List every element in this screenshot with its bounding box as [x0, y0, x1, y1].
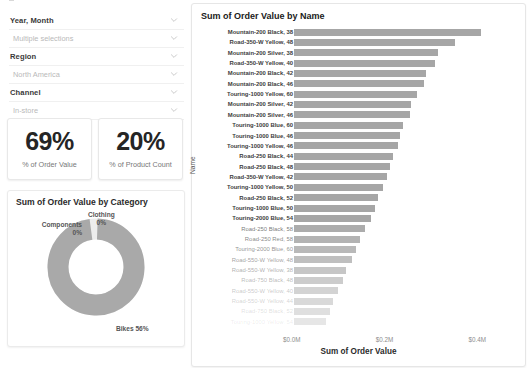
bar-chart-row[interactable]: Road-250 Red, 58: [192, 235, 525, 243]
bar-category-label: Road-350-W Yellow, 48: [229, 38, 293, 46]
bar-category-label: Road-250 Red, 58: [245, 235, 293, 243]
bar-rect[interactable]: [294, 184, 383, 191]
bar-rect[interactable]: [294, 153, 393, 160]
bar-category-label: Road-250 Black, 52: [239, 194, 293, 202]
chevron-down-icon[interactable]: [170, 88, 178, 96]
bar-chart-row[interactable]: Road-350-W Yellow, 42: [192, 173, 525, 181]
chevron-down-icon[interactable]: [170, 70, 178, 78]
bar-chart-row[interactable]: Road-250 Black, 48: [192, 163, 525, 171]
bar-rect[interactable]: [294, 236, 360, 243]
bar-category-label: Touring-1000 Yellow, 46: [227, 142, 293, 150]
bar-chart-row[interactable]: Road-350-W Yellow, 40: [192, 59, 525, 67]
bar-chart-row[interactable]: Touring-1000 Blue, 60: [192, 121, 525, 129]
bar-category-label: Mountain-200 Black, 38: [228, 28, 293, 36]
bar-rect[interactable]: [294, 256, 352, 263]
kpi-value: 20%: [116, 129, 165, 154]
chevron-down-icon[interactable]: [170, 34, 178, 42]
bar-rect[interactable]: [294, 111, 410, 118]
bar-chart-row[interactable]: Touring-1000 Yellow, 46: [192, 142, 525, 150]
bar-chart-row[interactable]: Mountain-200 Black, 42: [192, 69, 525, 77]
bar-rect[interactable]: [294, 246, 356, 253]
bar-rect[interactable]: [294, 163, 390, 170]
filter-row-channel[interactable]: Channel: [6, 82, 184, 102]
bar-rect[interactable]: [294, 225, 365, 232]
bar-chart-row[interactable]: Road-550-W Yellow, 38: [192, 266, 525, 274]
bar-chart-row[interactable]: Mountain-200 Silver, 46: [192, 111, 525, 119]
bar-rect[interactable]: [294, 70, 426, 77]
chevron-down-icon[interactable]: [170, 52, 178, 60]
donut-label-components-pct: 0%: [22, 229, 82, 237]
bar-chart-row[interactable]: Mountain-200 Black, 46: [192, 80, 525, 88]
bar-chart-row[interactable]: Touring-2000 Blue, 60: [192, 245, 525, 253]
filter-row-multiple-selections[interactable]: Multiple selections: [6, 28, 184, 48]
bar-rect[interactable]: [294, 277, 343, 284]
bar-rect[interactable]: [294, 194, 378, 201]
bar-category-label: Road-350-W Yellow, 42: [229, 173, 293, 181]
donut-chart-panel[interactable]: Sum of Order Value by Category Clothing …: [7, 190, 185, 347]
bar-rect[interactable]: [294, 101, 411, 108]
bar-rect[interactable]: [294, 49, 438, 56]
bar-chart-row[interactable]: Road-750 Black, 48: [192, 276, 525, 284]
filter-row-north-america[interactable]: North America: [6, 64, 184, 84]
bar-rect[interactable]: [294, 39, 455, 46]
donut-label-components: Components 0%: [22, 221, 82, 237]
bar-chart-panel[interactable]: Sum of Order Value by Name Name Mountain…: [191, 3, 526, 367]
bar-chart-row[interactable]: Road-550-W Yellow, 48: [192, 256, 525, 264]
bar-rect[interactable]: [294, 318, 326, 325]
bar-plot-area: Mountain-200 Black, 38Road-350-W Yellow,…: [192, 28, 525, 336]
bar-chart-row[interactable]: Mountain-200 Silver, 42: [192, 100, 525, 108]
x-axis-tick-label: $0.4M: [469, 336, 487, 343]
bar-chart-row[interactable]: Touring-2000 Blue, 54: [192, 214, 525, 222]
bar-rect[interactable]: [294, 29, 481, 36]
bar-chart-row[interactable]: Touring-1000 Blue, 46: [192, 132, 525, 140]
bar-category-label: Road-750 Black, 52: [241, 307, 293, 315]
bar-chart-row[interactable]: Road-250 Black, 58: [192, 225, 525, 233]
bar-rect[interactable]: [294, 91, 417, 98]
kpi-card-order-value[interactable]: 69% % of Order Value: [7, 118, 92, 180]
bar-rect[interactable]: [294, 267, 346, 274]
bar-category-label: Touring-1000 Yellow, 60: [227, 90, 293, 98]
bar-category-label: Road-550-W Yellow, 44: [232, 297, 293, 305]
filter-label: Region: [10, 52, 36, 61]
donut-label-bikes: Bikes 56%: [116, 325, 149, 333]
donut-chart-area: Clothing 0% Components 0% Bikes 56%: [8, 209, 184, 346]
bar-rect[interactable]: [294, 132, 400, 139]
bar-rect[interactable]: [294, 60, 435, 67]
filter-value: North America: [10, 70, 60, 79]
bar-rect[interactable]: [294, 122, 403, 129]
donut-chart-title: Sum of Order Value by Category: [16, 197, 148, 207]
chevron-down-icon[interactable]: [170, 106, 178, 114]
bar-rect[interactable]: [294, 173, 387, 180]
bar-chart-row[interactable]: Mountain-200 Black, 38: [192, 28, 525, 36]
chevron-down-icon[interactable]: [170, 16, 178, 24]
bar-chart-row[interactable]: Mountain-200 Silver, 38: [192, 49, 525, 57]
bar-rect[interactable]: [294, 142, 398, 149]
bar-chart-row[interactable]: Road-750 Black, 52: [192, 307, 525, 315]
filter-row-year-month[interactable]: Year, Month: [6, 10, 184, 30]
bar-chart-row[interactable]: Road-550-W Yellow, 40: [192, 287, 525, 295]
bar-chart-row[interactable]: Touring-1000 Yellow, 54: [192, 318, 525, 326]
bar-rect[interactable]: [294, 308, 330, 315]
bar-chart-row[interactable]: Touring-1000 Yellow, 50: [192, 183, 525, 191]
bar-chart-row[interactable]: Road-250 Black, 44: [192, 152, 525, 160]
bar-rect[interactable]: [294, 287, 338, 294]
bar-chart-row[interactable]: Road-550-W Yellow, 44: [192, 297, 525, 305]
kpi-card-product-count[interactable]: 20% % of Product Count: [98, 118, 183, 180]
bar-chart-row[interactable]: Road-350-W Yellow, 48: [192, 38, 525, 46]
bar-chart-row[interactable]: Touring-1000 Yellow, 60: [192, 90, 525, 98]
bar-category-label: Road-250 Black, 58: [241, 225, 293, 233]
bar-category-label: Touring-1000 Blue, 50: [232, 204, 293, 212]
bar-rect[interactable]: [294, 298, 333, 305]
bar-rect[interactable]: [294, 205, 375, 212]
bar-rect[interactable]: [294, 80, 424, 87]
kpi-card-group: 69% % of Order Value 20% % of Product Co…: [7, 118, 183, 180]
filter-row-region[interactable]: Region: [6, 46, 184, 66]
bar-category-label: Touring-1000 Yellow, 50: [227, 183, 293, 191]
bar-chart-row[interactable]: Road-250 Black, 52: [192, 194, 525, 202]
bar-category-label: Mountain-200 Silver, 38: [228, 49, 293, 57]
filter-value: In-store: [10, 106, 38, 115]
filter-row-in-store[interactable]: In-store: [6, 100, 184, 120]
bar-rect[interactable]: [294, 215, 371, 222]
x-axis-title: Sum of Order Value: [192, 347, 525, 356]
bar-chart-row[interactable]: Touring-1000 Blue, 50: [192, 204, 525, 212]
